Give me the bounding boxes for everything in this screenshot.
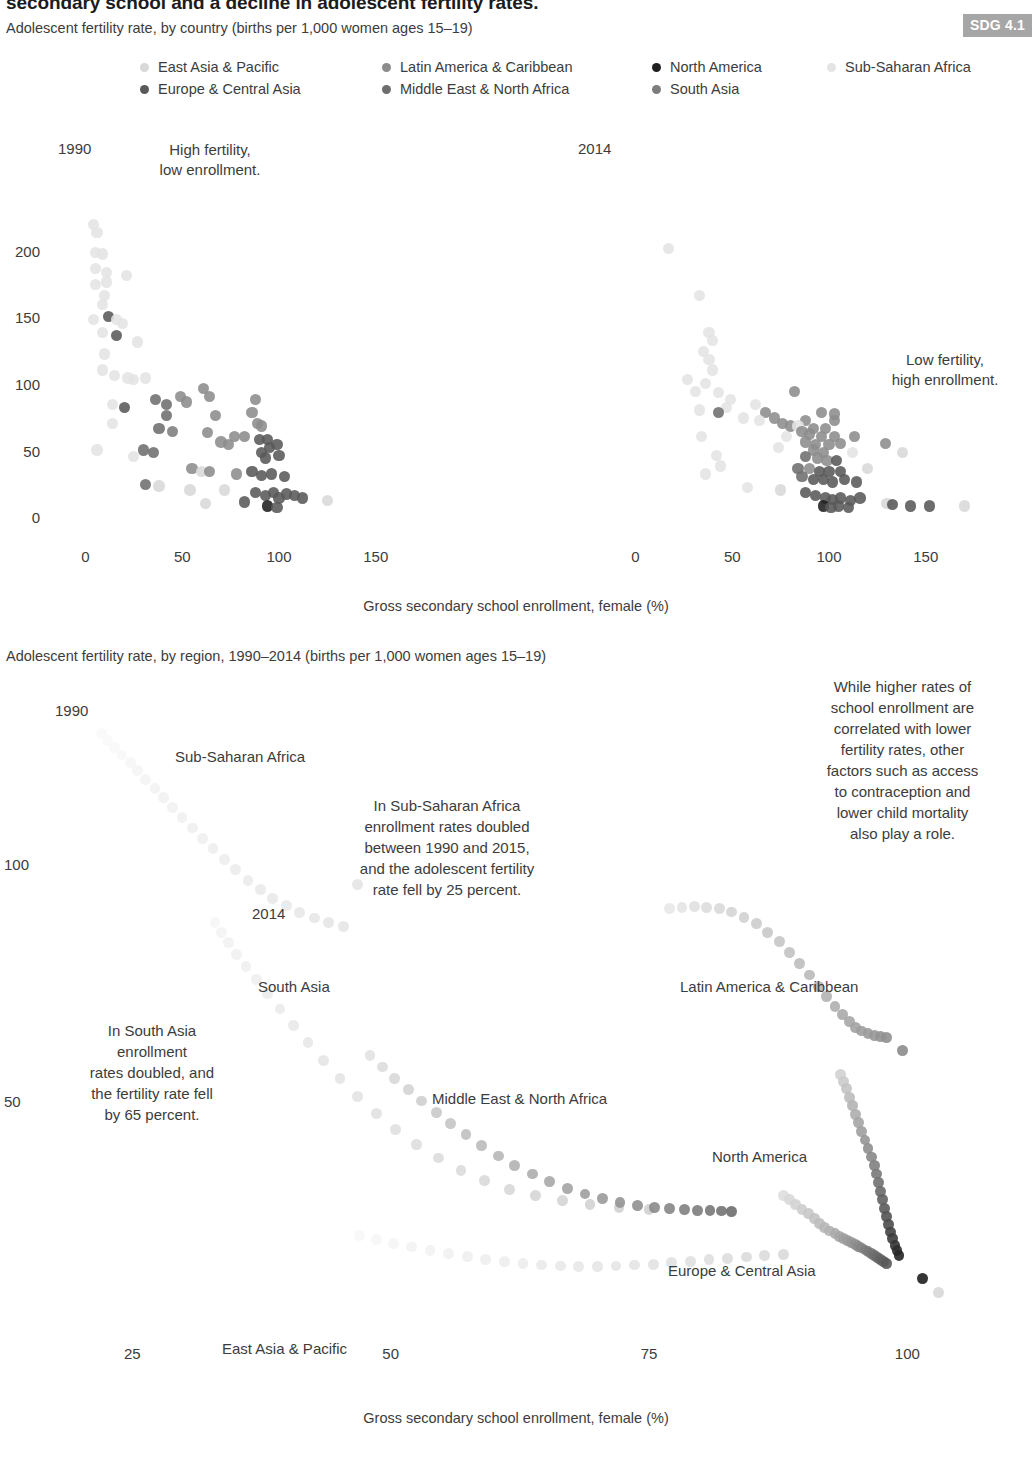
trajectory-point (167, 802, 178, 813)
bottom-year-start-label: 1990 (55, 702, 88, 719)
scatter-y-tick: 50 (0, 443, 40, 460)
trajectory-point (318, 1055, 329, 1066)
bottom-x-tick: 75 (619, 1345, 679, 1362)
trajectory-point (562, 1183, 573, 1194)
trajectory-point (476, 1140, 487, 1151)
scatter-point (97, 327, 108, 338)
legend-item-latin-america-caribbean: Latin America & Caribbean (382, 59, 630, 75)
trajectory-point (692, 1205, 703, 1216)
trajectory-point (751, 918, 762, 929)
trajectory-point (197, 833, 208, 844)
scatter-point (880, 438, 891, 449)
scatter-point (97, 248, 108, 259)
legend-swatch-icon (382, 85, 391, 94)
legend-item-label: North America (670, 59, 762, 75)
trajectory-point (762, 927, 773, 938)
scatter-point (715, 460, 726, 471)
legend-row-2: Europe & Central AsiaMiddle East & North… (140, 78, 1000, 100)
scatter-point (121, 270, 132, 281)
scatter-point (959, 500, 970, 511)
scatter-point (97, 299, 108, 310)
trajectory-point (406, 1242, 417, 1253)
trajectory-point (493, 1151, 504, 1162)
scatter-point (775, 484, 786, 495)
legend-item-east-asia-pacific: East Asia & Pacific (140, 59, 360, 75)
page-headline: secondary school and a decline in adoles… (6, 0, 906, 14)
legend-swatch-icon (827, 63, 836, 72)
scatter-point (90, 279, 101, 290)
scatter-point (109, 370, 120, 381)
chart-legend: East Asia & PacificLatin America & Carib… (140, 56, 1000, 100)
scatter-panel-2014: 2014Low fertility,high enrollment.050100… (560, 120, 1032, 620)
trajectory-point (243, 875, 254, 886)
trajectory-point (365, 1050, 376, 1061)
trajectory-point (443, 1248, 454, 1259)
scatter-point (239, 496, 250, 507)
trajectory-point (208, 843, 219, 854)
chart1-subtitle: Adolescent fertility rate, by country (b… (6, 20, 473, 36)
scatter-panel-1990: 1990High fertility,low enrollment.200150… (0, 120, 550, 620)
trajectory-point (479, 1175, 490, 1186)
scatter-y-tick: 200 (0, 243, 40, 260)
scatter-point (862, 463, 873, 474)
panel-year-label: 2014 (578, 140, 611, 157)
scatter-point (694, 404, 705, 415)
trajectory-point (784, 947, 795, 958)
legend-item-label: South Asia (670, 81, 739, 97)
trajectory-point (241, 961, 252, 972)
scatter-point (690, 386, 701, 397)
trajectory-point (140, 774, 151, 785)
trajectory-point (371, 1108, 382, 1119)
scatter-point (88, 314, 99, 325)
legend-item-north-america: North America (652, 59, 805, 75)
region-series-label: Sub-Saharan Africa (175, 748, 305, 765)
scatter-point (204, 466, 215, 477)
scatter-point (700, 378, 711, 389)
trajectory-point (461, 1129, 472, 1140)
trajectory-point (677, 902, 688, 913)
trajectory-point (611, 1261, 622, 1272)
trajectory-point (509, 1160, 520, 1171)
trajectory-point (701, 902, 712, 913)
trajectory-point (897, 1045, 908, 1056)
scatter-point (843, 502, 854, 513)
trajectory-point (158, 792, 169, 803)
scatter-point (107, 399, 118, 410)
scatter-point (816, 407, 827, 418)
scatter-point (829, 415, 840, 426)
trajectory-point (216, 927, 227, 938)
trajectory-point (518, 1258, 529, 1269)
trajectory-point (794, 958, 805, 969)
trajectory-point (726, 907, 737, 918)
trajectory-point (917, 1273, 928, 1284)
scatter-point (694, 290, 705, 301)
scatter-point (150, 394, 161, 405)
scatter-point (271, 439, 282, 450)
sdg-badge: SDG 4.1 (963, 14, 1032, 37)
scatter-point (789, 386, 800, 397)
trajectory-point (649, 1202, 660, 1213)
trajectory-point (632, 1200, 643, 1211)
scatter-point (849, 431, 860, 442)
trajectory-point (219, 854, 230, 865)
scatter-point (682, 374, 693, 385)
legend-item-europe-central-asia: Europe & Central Asia (140, 81, 360, 97)
scatter-point (707, 335, 718, 346)
scatter-point (738, 412, 749, 423)
legend-swatch-icon (140, 63, 149, 72)
bottom-year-end-label: 2014 (252, 905, 285, 922)
trajectory-point (177, 812, 188, 823)
trajectory-point (309, 913, 320, 924)
panel-annotation: High fertility,low enrollment. (110, 140, 310, 181)
trajectory-point (664, 1203, 675, 1214)
scatter-point (202, 427, 213, 438)
trajectory-point (774, 936, 785, 947)
trajectory-point (411, 1139, 422, 1150)
scatter-point (273, 450, 284, 461)
bottom-annotation: While higher rates ofschool enrollment a… (800, 676, 1005, 844)
trajectory-point (371, 1234, 382, 1245)
scatter-x-tick: 100 (254, 548, 304, 565)
scatter-x-tick: 0 (610, 548, 660, 565)
trajectory-point (726, 1206, 737, 1217)
trajectory-point (255, 884, 266, 895)
